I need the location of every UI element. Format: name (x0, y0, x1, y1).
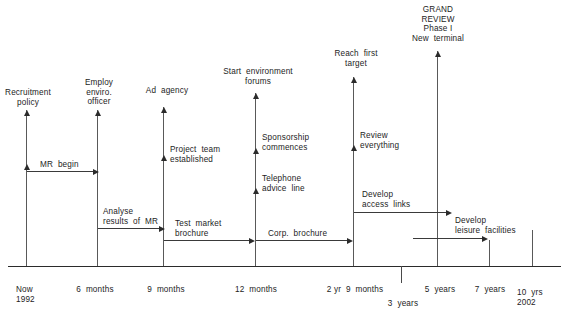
tick-line-3-years (401, 266, 402, 283)
axis-label-7-years-text: 7 years (475, 285, 505, 294)
label-leisure-line2: leisure facilities (455, 226, 516, 235)
axis-label-now-line1: Now (16, 285, 33, 294)
axis-label-3-years-text: 3 years (388, 299, 418, 308)
label-start-forums-line1: Start environment (223, 67, 293, 76)
label-telephone-line1: Telephone (262, 174, 301, 183)
label-leisure-line1: Develop (455, 216, 486, 225)
axis-label-12-months: 12 months (235, 285, 277, 295)
label-sponsorship-line1: Sponsorship (262, 133, 309, 142)
label-recruitment-policy-line1: Recruitment (5, 88, 51, 97)
activity-line-develop-access-links (354, 212, 449, 213)
label-employ-line1: Employ (85, 78, 113, 87)
label-reach-target-line1: Reach first (334, 49, 377, 58)
axis-label-6-months: 6 months (76, 285, 113, 295)
label-grand-line1: GRAND (423, 5, 453, 14)
activity-line-analyse-results-of-mr (98, 228, 162, 229)
label-grand-line2: REVIEW (421, 15, 454, 24)
label-grand-line3: Phase I (424, 24, 453, 33)
label-analyse-results-of-mr: Analyseresults of MR (103, 207, 158, 226)
label-mr-begin: MR begin (40, 160, 79, 170)
tick-line-10-years (532, 230, 533, 266)
arrowhead-grand-review (435, 51, 441, 57)
label-recruitment-policy-line2: policy (17, 98, 39, 107)
label-ad-agency-text: Ad agency (146, 86, 188, 95)
activity-line-mr-begin (27, 171, 95, 172)
arrowhead-employ-enviro-officer (95, 110, 101, 116)
label-access-links-line1: Develop (362, 190, 393, 199)
label-corp-brochure: Corp. brochure (268, 229, 327, 239)
label-analyse-line1: Analyse (103, 207, 133, 216)
label-corp-brochure-text: Corp. brochure (268, 229, 327, 238)
label-telephone-line2: advice line (262, 184, 305, 193)
axis-label-3-years: 3 years (388, 299, 418, 309)
label-review-everything: Revieweverything (360, 131, 399, 150)
label-sponsorship-commences: Sponsorshipcommences (262, 133, 309, 152)
label-grand-line4: New terminal (412, 34, 464, 43)
axis-label-10-years-line1: 10 yrs (517, 288, 543, 297)
shaft-employ-enviro-officer (97, 110, 98, 266)
axis-label-9-months-text: 9 months (147, 285, 184, 294)
timeline-diagram: Recruitmentpolicy Employenviro.officer A… (0, 0, 569, 315)
label-employ-enviro-officer: Employenviro.officer (85, 78, 113, 107)
label-employ-line3: officer (87, 97, 110, 106)
axis-label-now-line2: 1992 (16, 295, 35, 304)
shaft-grand-review (437, 51, 438, 266)
label-review-line2: everything (360, 141, 399, 150)
label-analyse-line2: results of MR (103, 217, 158, 226)
shaft-recruitment-policy (26, 110, 27, 266)
label-recruitment-policy: Recruitmentpolicy (5, 88, 51, 107)
axis-label-10-years-line2: 2002 (517, 298, 536, 307)
arrowhead-corp-brochure (347, 238, 353, 244)
arrowhead-recruitment-policy (24, 110, 30, 116)
label-access-links-line2: access links (362, 200, 410, 209)
arrowhead-develop-leisure-facilities (482, 236, 488, 242)
shaft-ad-agency (163, 107, 164, 266)
arrowhead-ad-agency (161, 107, 167, 113)
label-test-market-brochure: Test marketbrochure (175, 219, 221, 238)
label-mr-begin-text: MR begin (40, 160, 79, 169)
axis-label-6-months-text: 6 months (76, 285, 113, 294)
label-start-forums-line2: forums (245, 77, 271, 86)
label-sponsorship-line2: commences (262, 143, 308, 152)
activity-line-corp-brochure (256, 240, 350, 241)
label-project-team-line2: established (170, 155, 213, 164)
arrowhead-mr-begin (93, 169, 99, 175)
label-develop-access-links: Developaccess links (362, 190, 410, 209)
label-review-line1: Review (360, 131, 388, 140)
tick-line-7-years (489, 240, 490, 266)
axis-label-12-months-text: 12 months (235, 285, 277, 294)
label-test-market-line1: Test market (175, 219, 221, 228)
axis-label-10-years: 10 yrs2002 (517, 288, 543, 307)
arrowhead-review-everything (351, 145, 357, 151)
axis-label-2yr-9-months-text: 2 yr 9 months (327, 285, 383, 294)
activity-line-develop-leisure-facilities (413, 238, 485, 239)
axis-label-5-years: 5 years (425, 285, 455, 295)
label-grand-review: GRANDREVIEWPhase INew terminal (412, 5, 464, 43)
arrowhead-project-team-established (161, 155, 167, 161)
activity-line-test-market-brochure (164, 240, 252, 241)
arrowhead-start-environment-forums (253, 93, 259, 99)
label-test-market-line2: brochure (175, 229, 209, 238)
label-telephone-advice-line: Telephoneadvice line (262, 174, 305, 193)
timeline-axis (8, 266, 561, 267)
arrowhead-recruitment-policy-mid (24, 164, 30, 170)
label-project-team-established: Project teamestablished (170, 145, 220, 164)
label-reach-first-target: Reach firsttarget (334, 49, 377, 68)
label-start-environment-forums: Start environmentforums (223, 67, 293, 86)
arrowhead-develop-access-links (446, 210, 452, 216)
arrowhead-reach-first-target (351, 77, 357, 83)
arrowhead-sponsorship-commences (253, 148, 259, 154)
axis-label-7-years: 7 years (475, 285, 505, 295)
label-project-team-line1: Project team (170, 145, 220, 154)
arrowhead-telephone-advice-line (253, 188, 259, 194)
arrowhead-analyse-results-of-mr (159, 226, 165, 232)
arrowhead-test-market-brochure (249, 238, 255, 244)
axis-label-2yr-9-months: 2 yr 9 months (327, 285, 383, 295)
axis-label-9-months: 9 months (147, 285, 184, 295)
axis-label-now: Now1992 (16, 285, 35, 304)
axis-label-5-years-text: 5 years (425, 285, 455, 294)
label-ad-agency: Ad agency (146, 86, 188, 96)
label-reach-target-line2: target (345, 59, 367, 68)
label-develop-leisure-facilities: Developleisure facilities (455, 216, 516, 235)
label-employ-line2: enviro. (86, 88, 112, 97)
